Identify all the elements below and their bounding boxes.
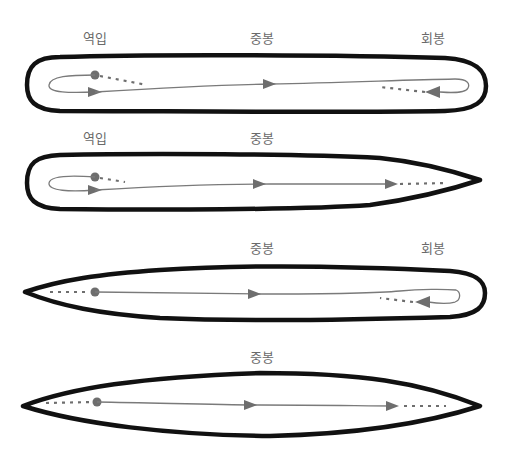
brush-stroke-diagram <box>0 0 517 459</box>
stroke-2-arrow-icon <box>253 179 266 189</box>
stroke-1-label-reverse-entry: 역입 <box>83 28 107 47</box>
stroke-1-entry-dotted-line <box>100 76 147 85</box>
stroke-3 <box>25 266 485 320</box>
stroke-2-exit-dotted-line <box>400 183 448 184</box>
stroke-3-arrow-icon <box>248 289 261 299</box>
stroke-3-return-arrow-icon <box>415 296 430 308</box>
stroke-2 <box>27 154 480 210</box>
stroke-1-main-path <box>95 79 469 93</box>
stroke-4-arrow-icon <box>386 401 399 411</box>
stroke-4-label-center-tip: 중봉 <box>250 347 274 366</box>
stroke-1-return-arrow-icon <box>425 86 440 98</box>
stroke-2-arrow-icon <box>385 179 398 189</box>
stroke-2-label-reverse-entry: 역입 <box>83 128 107 147</box>
stroke-3-exit-dotted-line <box>380 298 413 302</box>
stroke-3-label-return-tip: 회봉 <box>421 238 445 257</box>
stroke-2-main-path <box>95 184 395 190</box>
stroke-1-label-return-tip: 회봉 <box>421 28 445 47</box>
stroke-1-label-center-tip: 중봉 <box>250 28 274 47</box>
stroke-4-entry-dotted-line <box>46 402 92 403</box>
stroke-1-arrow-icon <box>263 79 276 89</box>
stroke-1-outline <box>27 55 486 112</box>
stroke-4 <box>23 373 480 436</box>
stroke-2-label-center-tip: 중봉 <box>250 128 274 147</box>
stroke-3-label-center-tip: 중봉 <box>250 238 274 257</box>
stroke-2-entry-dotted-line <box>100 178 125 182</box>
stroke-1-exit-dotted-line <box>380 87 425 92</box>
stroke-1 <box>27 55 486 112</box>
stroke-4-arrow-icon <box>244 400 257 410</box>
